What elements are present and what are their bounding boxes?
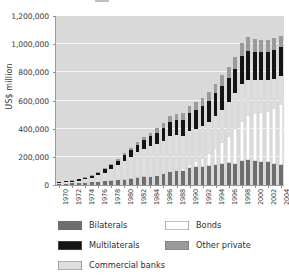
legend-swatch-bonds [165,221,189,230]
bar-segment-bilaterals [64,184,68,185]
bar-segment-bilaterals [253,161,257,185]
bar-segment-multilaterals [168,122,172,137]
bar-segment-bilaterals [149,177,153,185]
bar-segment-other-private [207,92,211,101]
bar-2000 [253,39,257,185]
bar-segment-bilaterals [155,176,159,185]
x-axis-tick-mark [98,186,99,188]
bar-segment-commercial-banks [207,122,211,153]
bar-segment-other-private [227,67,231,78]
x-axis-tick-mark [163,186,164,188]
bar-segment-bilaterals [96,182,100,185]
bar-segment-bilaterals [227,163,231,185]
bar-segment-commercial-banks [246,80,250,115]
bar-1996 [227,67,231,185]
bar-2002 [266,40,270,185]
bar-segment-commercial-banks [123,161,127,179]
bar-segment-multilaterals [162,128,166,141]
bar-segment-bilaterals [246,160,250,185]
bar-1974 [83,177,87,185]
bar-segment-bonds [279,104,283,165]
bar-segment-commercial-banks [188,131,192,164]
x-axis-tick-mark [150,186,151,188]
x-axis-tick-labels: 1970197219741976197819801982198419861988… [56,186,284,214]
bar-segment-commercial-banks [149,146,153,175]
bar-segment-commercial-banks [201,126,205,158]
y-axis-tick-label: 200,000 [18,152,49,161]
bar-1992 [201,98,205,185]
bar-segment-commercial-banks [181,136,185,168]
bar-1993 [207,92,211,185]
x-axis-tick-label: 1992 [205,189,213,205]
bar-segment-other-private [253,39,257,52]
bar-segment-other-private [220,75,224,86]
x-axis-tick-mark [190,186,191,188]
legend-item-other-private: Other private [165,240,251,250]
x-axis-tick-label: 1990 [192,189,200,205]
bar-segment-commercial-banks [194,129,198,161]
bar-1990 [188,106,192,185]
bar-segment-other-private [240,43,244,56]
bar-segment-bilaterals [109,181,113,185]
bar-segment-commercial-banks [220,110,224,143]
bar-segment-bilaterals [181,171,185,185]
legend-label: Commercial banks [89,260,165,270]
bar-segment-multilaterals [142,140,146,148]
bar-segment-other-private [266,40,270,52]
bar-segment-multilaterals [201,106,205,126]
bar-2003 [272,38,276,185]
bar-segment-multilaterals [188,113,192,131]
bar-segment-other-private [272,38,276,50]
x-axis-tick-label: 1984 [153,189,161,205]
bar-segment-bilaterals [83,183,87,185]
bar-segment-commercial-banks [168,136,172,170]
bar-segment-other-private [194,102,198,110]
bar-segment-bilaterals [70,183,74,185]
y-axis-tick-labels: 0200,000400,000600,000800,0001,000,0001,… [0,0,53,214]
bar-1977 [103,168,107,185]
bar-segment-other-private [233,57,237,69]
bar-segment-bilaterals [201,167,205,185]
bar-segment-multilaterals [136,145,140,152]
bar-segment-other-private [259,40,263,52]
bar-segment-bonds [266,111,270,163]
bar-segment-bilaterals [194,167,198,185]
bar-1985 [155,128,159,185]
bar-segment-other-private [246,37,250,51]
x-axis-tick-label: 1970 [62,189,70,205]
chart-figure: US$ million 0200,000400,000600,000800,00… [0,0,289,280]
bar-1984 [149,133,153,185]
legend-item-bilaterals: Bilaterals [58,220,127,230]
bar-segment-commercial-banks [155,144,159,174]
x-axis-tick-label: 2004 [283,189,289,205]
bar-segment-multilaterals [149,136,153,146]
bar-2004 [279,36,283,185]
bar-segment-bonds [272,108,276,164]
bar-segment-commercial-banks [103,173,107,181]
bar-segment-bilaterals [207,166,211,185]
bar-segment-bilaterals [57,184,61,185]
bar-segment-bilaterals [142,177,146,185]
bar-1987 [168,116,172,185]
bar-1997 [233,57,237,185]
bar-segment-bonds [227,136,231,164]
bar-1980 [123,153,127,185]
y-axis-tick-label: 1,200,000 [11,12,49,21]
y-axis-tick-label: 1,000,000 [11,40,49,49]
bar-1973 [77,179,81,185]
bar-segment-bilaterals [240,161,244,185]
x-axis-tick-mark [72,186,73,188]
legend-item-bonds: Bonds [165,220,221,230]
bar-1983 [142,137,146,185]
bar-segment-multilaterals [246,51,250,80]
chart-legend: BilateralsBondsMultilateralsOther privat… [0,214,289,280]
legend-swatch-commercial-banks [58,261,82,270]
bar-segment-bilaterals [220,164,224,185]
x-axis-tick-mark [137,186,138,188]
x-axis-tick-label: 1994 [218,189,226,205]
x-axis-tick-mark [203,186,204,188]
bar-segment-multilaterals [272,50,276,79]
chart-plot-region: US$ million 0200,000400,000600,000800,00… [0,0,289,214]
legend-label: Other private [196,240,251,250]
bar-segment-bilaterals [175,171,179,185]
